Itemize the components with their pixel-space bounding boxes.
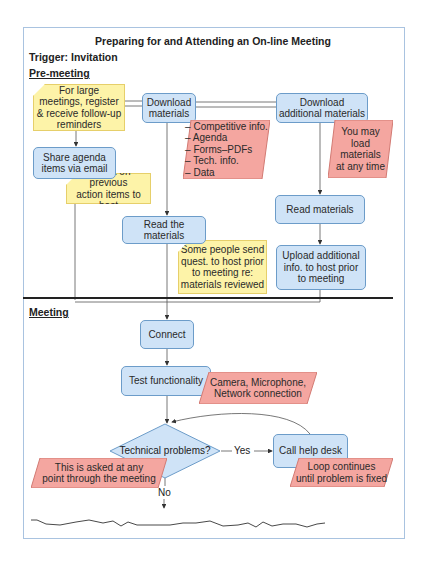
process-download-additional: Downloadadditional materials [276,93,368,123]
data-test-items: Camera, Microphone, Network connection [199,372,317,404]
data-line: point through the meeting [42,473,155,484]
process-connect: Connect [140,320,194,349]
note-line: & receive follow-up [37,108,121,119]
data-line: Loop continues [308,461,376,472]
data-load-any-time: You may load materials at any time [328,120,393,178]
data-line: load [351,138,370,149]
note-line: quest. to host prior [181,256,264,267]
process-read-the-materials: Read the materials [122,216,206,244]
data-line: – Forms–PDFs [185,144,252,155]
note-send-questions: Some people send quest. to host prior to… [178,240,267,294]
data-line: – Competitive info. [185,121,268,132]
process-share-agenda: Share agendaitems via email [33,147,116,179]
box-line: items via email [41,163,107,174]
data-asked-any-point: This is asked at any point through the m… [31,458,167,488]
note-line: reminders [57,119,101,130]
data-line: materials [340,149,381,160]
note-line: Some people send [181,244,264,255]
box-line: Download [147,97,191,108]
data-line: Network connection [214,388,302,399]
box-line: info. to host prior [284,262,358,273]
process-download-materials: Downloadmaterials [142,93,196,123]
process-read-materials: Read materials [275,195,365,224]
data-line: until problem is fixed [296,473,387,484]
box-line: materials [149,108,190,119]
note-line: to meeting re: [192,267,253,278]
note-line: For large [59,85,99,96]
note-line: meetings, register [39,96,118,107]
decision-question: Technical problems? [110,445,220,456]
data-line: This is asked at any [55,462,143,473]
box-line: Download [300,97,344,108]
data-line: – Data [185,167,214,178]
data-loop-continues: Loop continues until problem is fixed [290,458,393,487]
box-line: Share agenda [43,152,106,163]
decision-yes-label: Yes [234,445,250,456]
data-line: – Agenda [185,132,227,143]
data-line: – Tech. info. [185,155,239,166]
box-line: Upload additional [282,250,359,261]
box-line: additional materials [279,108,365,119]
box-line: to meeting [298,273,345,284]
data-line: at any time [336,161,385,172]
process-test-functionality: Test functionality [121,366,211,396]
data-materials-list: – Competitive info. – Agenda – Forms–PDF… [183,120,270,179]
data-line: Camera, Microphone, [210,377,306,388]
process-upload-additional: Upload additionalinfo. to host priorto m… [276,245,366,290]
data-line: You may [341,126,380,137]
decision-no-label: No [158,487,171,498]
note-register-reminders: For large meetings, register & receive f… [33,84,125,131]
note-line: materials reviewed [181,279,264,290]
